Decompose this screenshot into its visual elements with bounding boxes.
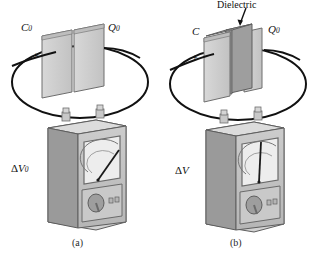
caption-a: (a) bbox=[72, 237, 83, 248]
positive-sign-a: + bbox=[33, 51, 39, 61]
positive-sign-b: + bbox=[192, 53, 198, 63]
charge-label-a: Q0 bbox=[108, 22, 120, 33]
voltmeter-a bbox=[48, 120, 126, 230]
meter-terminal-left-a bbox=[62, 108, 70, 121]
jack-right-b[interactable] bbox=[273, 199, 277, 204]
jack-left-b[interactable] bbox=[267, 200, 271, 205]
meter-terminal-right-b bbox=[254, 107, 262, 120]
jack-left-a[interactable] bbox=[109, 198, 113, 203]
capacitor-plate-positive-b bbox=[204, 32, 230, 102]
voltmeter-b bbox=[206, 122, 284, 232]
panel-a: C0 Q0 + − ΔV0 (a) bbox=[0, 0, 160, 261]
voltage-label-b: ΔV bbox=[175, 165, 189, 176]
dielectric-label-b: Dielectric bbox=[217, 0, 256, 10]
capacitor-dielectric-figure: C0 Q0 + − ΔV0 (a) bbox=[0, 0, 320, 261]
negative-sign-b: − bbox=[266, 46, 272, 56]
caption-b: (b) bbox=[230, 237, 242, 248]
capacitor-plate-positive-a bbox=[42, 30, 72, 98]
negative-sign-a: − bbox=[106, 44, 112, 54]
voltage-label-a: ΔV0 bbox=[11, 163, 29, 174]
panel-b-drawing bbox=[160, 0, 320, 261]
meter-terminal-right-a bbox=[96, 105, 104, 118]
capacitance-label-b: C bbox=[192, 26, 199, 37]
capacitance-label-a: C0 bbox=[21, 22, 32, 33]
meter-terminal-left-b bbox=[220, 110, 228, 123]
capacitor-plate-negative-a bbox=[74, 24, 104, 92]
jack-right-a[interactable] bbox=[115, 197, 119, 202]
panel-a-drawing bbox=[0, 0, 160, 261]
panel-b: Dielectric C Q0 + − ΔV (b) bbox=[160, 0, 320, 261]
charge-label-b: Q0 bbox=[268, 24, 280, 35]
